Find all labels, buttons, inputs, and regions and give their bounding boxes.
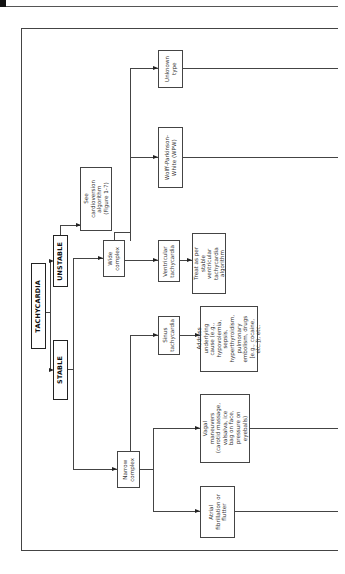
node-cardioversion-label: See cardioversion algorithm (Figure 1-7) xyxy=(83,180,109,218)
frame-left xyxy=(21,28,22,551)
edge-vagal-out xyxy=(250,428,338,429)
node-wide-complex-label: Wide complex xyxy=(107,247,120,271)
node-unstable-label: UNSTABLE xyxy=(57,242,64,281)
node-unknown-type: Unknown type xyxy=(158,50,183,88)
node-vagal-maneuvers-label: Vagal maneuvers (carotid massage, valsal… xyxy=(202,403,248,453)
node-wpw-label: Wolff-Parkinson- White (WPW) xyxy=(164,135,177,180)
node-stable-label: STABLE xyxy=(57,356,64,384)
node-address-cause-label: Address underlying cause (e.g., hypovole… xyxy=(196,315,262,363)
frame-top xyxy=(21,28,338,29)
node-tachycardia: TACHYCARDIA xyxy=(31,263,46,349)
edge-wpw-out xyxy=(183,157,338,158)
node-atrial-fib: Atrial fibrillation or flutter xyxy=(200,486,235,538)
edge-unknown-out xyxy=(183,68,338,69)
node-address-cause: Address underlying cause (e.g., hypovole… xyxy=(200,306,258,372)
node-ventricular-tachycardia: Ventricular tachycardia xyxy=(158,240,180,282)
arrow-to-stable xyxy=(49,368,54,372)
edge-afib-out xyxy=(235,511,338,512)
node-wpw: Wolff-Parkinson- White (WPW) xyxy=(158,127,183,188)
edge-to-afib xyxy=(153,511,200,512)
edge-narrow-vagal xyxy=(153,428,200,429)
edge-stable-branch xyxy=(73,258,74,470)
frame-bottom xyxy=(21,550,338,551)
node-unknown-type-label: Unknown type xyxy=(164,56,177,82)
edge-tachy-branch xyxy=(50,261,51,371)
node-tachycardia-label: TACHYCARDIA xyxy=(35,280,42,333)
arrow-to-unstable xyxy=(49,259,54,263)
edge-narrow-up xyxy=(130,335,131,451)
node-atrial-fib-label: Atrial fibrillation or flutter xyxy=(208,494,228,530)
arrow-to-vagal xyxy=(195,426,200,430)
edge-wide-stem xyxy=(114,232,115,240)
node-wide-complex: Wide complex xyxy=(103,240,125,277)
node-narrow-complex: Narrow complex xyxy=(117,451,140,488)
edge-narrow-branch xyxy=(153,428,154,511)
edge-wide-stem-h xyxy=(114,232,130,233)
header-rule xyxy=(6,6,338,7)
node-sinus-tachycardia-label: Sinus tachycardia xyxy=(162,319,175,352)
node-cardioversion: See cardioversion algorithm (Figure 1-7) xyxy=(80,167,112,231)
node-stable: STABLE xyxy=(53,340,68,400)
node-treat-as-per: Treat as per stable ventricular tachycar… xyxy=(192,233,226,294)
node-treat-as-per-label: Treat as per stable ventricular tachycar… xyxy=(193,247,226,280)
node-unstable: UNSTABLE xyxy=(53,235,68,287)
edge-wide-up xyxy=(130,68,131,241)
node-ventricular-tachycardia-label: Ventricular tachycardia xyxy=(162,245,175,278)
node-narrow-complex-label: Narrow complex xyxy=(122,458,135,482)
edge-narrow-stem xyxy=(140,469,153,470)
edge-unstable-cardioversion xyxy=(60,225,61,235)
node-vagal-maneuvers: Vagal maneuvers (carotid massage, valsal… xyxy=(200,394,250,463)
edge-to-narrow xyxy=(73,469,117,470)
node-sinus-tachycardia: Sinus tachycardia xyxy=(158,316,180,355)
